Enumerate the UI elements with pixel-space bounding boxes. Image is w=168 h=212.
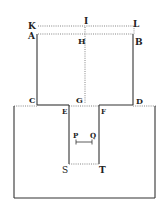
label-T: T [99,165,106,175]
label-K: K [28,21,37,31]
label-C: C [29,95,35,105]
label-Q: Q [90,131,96,140]
label-F: F [101,107,106,116]
label-A: A [27,31,36,41]
label-P: P [73,131,79,140]
label-E: E [62,107,67,116]
geometry-figure: K I L A H B C G D E F P Q S T [0,0,168,212]
label-G: G [76,95,83,105]
label-B: B [135,37,143,47]
label-I: I [84,16,88,26]
label-S: S [62,165,68,175]
label-L: L [133,19,140,29]
label-H: H [78,36,86,46]
label-D: D [136,96,143,106]
